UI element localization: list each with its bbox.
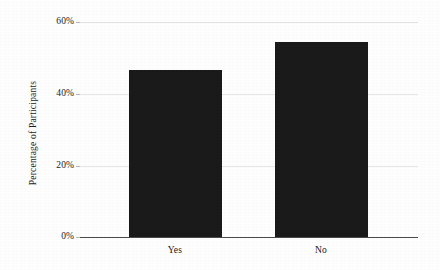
- y-tick-label-60: 60%: [28, 16, 74, 26]
- x-tick-label-yes: Yes: [115, 245, 235, 255]
- x-tick-label-no: No: [261, 245, 381, 255]
- bar-no[interactable]: [275, 42, 368, 237]
- y-axis-tick-group: 60% 40% 20% 0%: [26, 0, 74, 270]
- y-tick-label-0: 0%: [28, 231, 74, 241]
- y-tick-label-20: 20%: [28, 160, 74, 170]
- x-axis-line: [80, 237, 418, 238]
- plot-area: [80, 22, 418, 237]
- y-tick-label-40: 40%: [28, 88, 74, 98]
- bar-yes[interactable]: [129, 70, 222, 237]
- bar-chart-figure: Percentage of Participants 60% 40% 20% 0…: [0, 0, 440, 270]
